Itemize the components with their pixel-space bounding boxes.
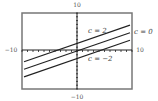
y-min-label: −10: [71, 93, 84, 100]
label-c-2: c = 2: [88, 27, 107, 35]
label-c-0: c = 0: [134, 28, 153, 36]
x-min-label: −10: [5, 46, 18, 53]
chart: 10 −10 −10 10 c = 2 c = 0 c = −2: [0, 0, 158, 101]
x-max-label: 10: [136, 46, 144, 53]
label-c-neg2: c = −2: [88, 55, 113, 63]
y-max-label: 10: [73, 1, 81, 8]
